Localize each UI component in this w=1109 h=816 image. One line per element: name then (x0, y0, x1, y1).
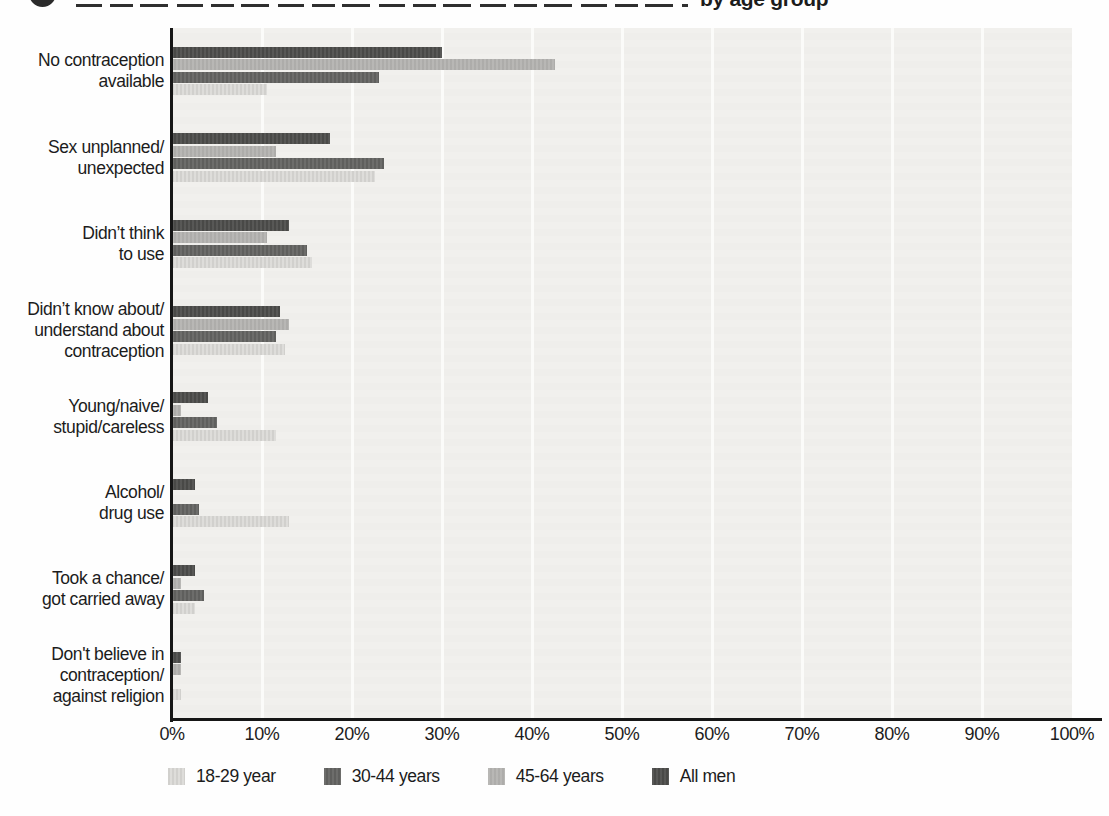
bar-30-44-years-cat7 (172, 590, 204, 601)
category-label-line: against religion (0, 686, 164, 707)
category-label-line: stupid/careless (0, 417, 164, 438)
bar-45-64-years-cat2 (172, 146, 276, 157)
gridline-70pct (801, 28, 804, 719)
legend-item-30-44-years: 30-44 years (324, 766, 440, 787)
category-label: Young/naive/stupid/careless (0, 374, 164, 460)
bar-45-64-years-cat3 (172, 232, 267, 243)
bar-all-men-cat2 (172, 133, 330, 144)
category-label-line: Sex unplanned/ (0, 137, 164, 158)
gridline-20pct (351, 28, 354, 719)
x-tick-label-60pct: 60% (695, 724, 730, 745)
category-label-line: Didn’t know about/ (0, 299, 164, 320)
bar-45-64-years-cat8 (172, 664, 181, 675)
gridline-30pct (441, 28, 444, 719)
x-tick-label-0pct: 0% (159, 724, 184, 745)
x-tick-label-30pct: 30% (425, 724, 460, 745)
bar-45-64-years-cat7 (172, 578, 181, 589)
category-label: Sex unplanned/unexpected (0, 114, 164, 200)
bar-18-29-year-cat8 (172, 689, 181, 700)
legend-item-all-men: All men (652, 766, 736, 787)
category-label-line: Didn’t think (0, 223, 164, 244)
x-tick-label-90pct: 90% (965, 724, 1000, 745)
bar-30-44-years-cat3 (172, 245, 307, 256)
category-label: No contraceptionavailable (0, 28, 164, 114)
category-label-line: Took a chance/ (0, 568, 164, 589)
legend-label: 45-64 years (516, 766, 604, 787)
category-label: Didn’t know about/understand aboutcontra… (0, 287, 164, 373)
bar-30-44-years-cat4 (172, 331, 276, 342)
x-tick-label-40pct: 40% (515, 724, 550, 745)
bar-45-64-years-cat5 (172, 405, 181, 416)
x-axis-tick-labels: 0%10%20%30%40%50%60%70%80%90%100% (0, 724, 1109, 746)
bar-18-29-year-cat3 (172, 257, 312, 268)
figure-page: by age group No contraceptionavailableSe… (0, 0, 1109, 816)
legend-label: 18-29 year (196, 766, 276, 787)
bar-all-men-cat5 (172, 392, 208, 403)
category-label-line: drug use (0, 503, 164, 524)
gridline-40pct (531, 28, 534, 719)
category-label-line: available (0, 71, 164, 92)
bar-18-29-year-cat2 (172, 171, 375, 182)
x-tick-label-10pct: 10% (245, 724, 280, 745)
plot-area (172, 28, 1072, 719)
category-label-line: Don't believe in (0, 644, 164, 665)
bar-30-44-years-cat1 (172, 72, 379, 83)
bar-all-men-cat1 (172, 47, 442, 58)
category-label-line: contraception (0, 341, 164, 362)
x-tick-label-50pct: 50% (605, 724, 640, 745)
category-label-line: Alcohol/ (0, 482, 164, 503)
y-axis-line (170, 28, 173, 722)
category-label-line: Young/naive/ (0, 396, 164, 417)
bar-45-64-years-cat1 (172, 59, 555, 70)
bar-18-29-year-cat4 (172, 344, 285, 355)
x-tick-label-80pct: 80% (875, 724, 910, 745)
gridline-80pct (891, 28, 894, 719)
category-label: Alcohol/drug use (0, 460, 164, 546)
bar-30-44-years-cat5 (172, 417, 217, 428)
legend-item-18-29-year: 18-29 year (168, 766, 276, 787)
bar-all-men-cat7 (172, 565, 195, 576)
x-tick-label-70pct: 70% (785, 724, 820, 745)
category-label: Don't believe incontraception/against re… (0, 633, 164, 719)
bar-18-29-year-cat7 (172, 603, 195, 614)
bar-18-29-year-cat5 (172, 430, 276, 441)
category-label: Took a chance/got carried away (0, 546, 164, 632)
legend-swatch-icon (652, 768, 669, 785)
x-axis-line (170, 718, 1102, 721)
category-label-line: got carried away (0, 589, 164, 610)
legend-label: All men (680, 766, 736, 787)
bar-30-44-years-cat6 (172, 504, 199, 515)
bar-all-men-cat3 (172, 220, 289, 231)
bar-chart: No contraceptionavailableSex unplanned/u… (0, 0, 1109, 816)
bar-45-64-years-cat4 (172, 319, 289, 330)
legend-swatch-icon (324, 768, 341, 785)
bar-all-men-cat8 (172, 652, 181, 663)
legend-item-45-64-years: 45-64 years (488, 766, 604, 787)
gridline-50pct (621, 28, 624, 719)
bar-18-29-year-cat1 (172, 84, 267, 95)
bar-all-men-cat6 (172, 479, 195, 490)
gridline-90pct (981, 28, 984, 719)
legend-swatch-icon (168, 768, 185, 785)
gridline-10pct (261, 28, 264, 719)
category-label-line: No contraception (0, 50, 164, 71)
bar-all-men-cat4 (172, 306, 280, 317)
bar-18-29-year-cat6 (172, 516, 289, 527)
category-label-line: understand about (0, 320, 164, 341)
category-label-line: unexpected (0, 158, 164, 179)
x-tick-label-100pct: 100% (1050, 724, 1094, 745)
x-tick-label-20pct: 20% (335, 724, 370, 745)
bar-30-44-years-cat2 (172, 158, 384, 169)
gridline-60pct (711, 28, 714, 719)
legend-swatch-icon (488, 768, 505, 785)
chart-legend: 18-29 year30-44 years45-64 yearsAll men (168, 766, 735, 787)
category-label-line: contraception/ (0, 665, 164, 686)
category-axis-labels: No contraceptionavailableSex unplanned/u… (0, 28, 164, 719)
category-label: Didn’t thinkto use (0, 201, 164, 287)
category-label-line: to use (0, 244, 164, 265)
legend-label: 30-44 years (352, 766, 440, 787)
